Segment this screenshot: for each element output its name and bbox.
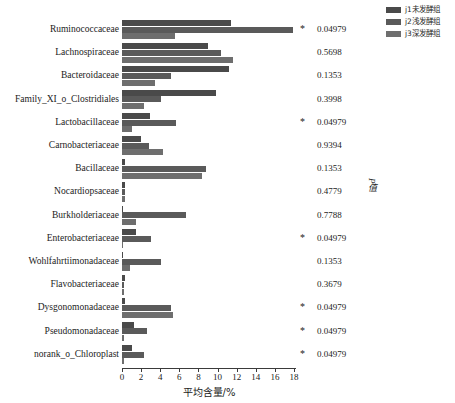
category-label-wrap: Wohlfahrtiimonadaceae <box>0 256 119 266</box>
category-label-wrap: norank_o_Chloroplast <box>0 349 119 359</box>
x-tick-label: 12 <box>232 372 241 382</box>
x-tick-label: 16 <box>270 372 279 382</box>
category-label-wrap: Lactobacillaceae <box>0 117 119 127</box>
pvalue-text: 0.1353 <box>317 256 342 266</box>
category-label: Lactobacillaceae <box>0 117 119 127</box>
category-label: Dysgonomonadaceae <box>0 302 119 312</box>
category-label-wrap: Bacillaceae <box>0 163 119 173</box>
bar <box>122 322 134 328</box>
pvalue-text: 0.04979 <box>317 117 346 127</box>
pvalue-text: 0.4779 <box>317 186 342 196</box>
category-label: Pseudomonadaceae <box>0 326 119 336</box>
x-axis-line <box>122 368 296 369</box>
pvalue-text: 0.04979 <box>317 326 346 336</box>
bar <box>122 182 125 188</box>
x-tick-label: 18 <box>290 372 299 382</box>
bar <box>122 120 176 126</box>
bar <box>122 259 161 265</box>
legend-item[interactable]: j3深发酵组 <box>386 29 440 38</box>
category-label-wrap: Enterobacteriaceae <box>0 233 119 243</box>
category-label: Lachnospiraceae <box>0 47 119 57</box>
category-label-wrap: Pseudomonadaceae <box>0 326 119 336</box>
pvalue-text: 0.04979 <box>317 233 346 243</box>
bar <box>122 328 147 334</box>
x-tick-label: 2 <box>139 372 144 382</box>
pvalue-text: 0.3679 <box>317 279 342 289</box>
legend-item-label: j2浅发酵组 <box>405 18 440 26</box>
x-axis-title: 平均含量/% <box>122 384 296 399</box>
bar <box>122 27 293 33</box>
pvalue-axis-title: P值 <box>366 178 379 193</box>
bar <box>122 173 202 179</box>
legend-item[interactable]: j2浅发酵组 <box>386 17 440 26</box>
bar <box>122 289 124 295</box>
category-label-wrap: Nocardiopsaceae <box>0 186 119 196</box>
category-label-wrap: Family_XI_o_Clostridiales <box>0 94 119 104</box>
legend: j1未发酵组j2浅发酵组j3深发酵组 <box>386 5 440 38</box>
legend-swatch-icon <box>386 19 401 25</box>
pvalue-text: 0.04979 <box>317 24 346 34</box>
pvalue-text: 0.3998 <box>317 94 342 104</box>
pvalue-text: 0.5698 <box>317 47 342 57</box>
category-label: Bacillaceae <box>0 163 119 173</box>
bar <box>122 126 132 132</box>
x-tick-label: 14 <box>251 372 260 382</box>
category-label: Flavobacteriaceae <box>0 279 119 289</box>
bar <box>122 206 123 212</box>
category-label: Bacteroidaceae <box>0 70 119 80</box>
bar <box>122 113 150 119</box>
bar <box>122 149 163 155</box>
bar <box>122 229 136 235</box>
significance-star: * <box>300 325 305 336</box>
bar <box>122 90 216 96</box>
category-label: Burkholderiaceae <box>0 210 119 220</box>
pvalue-text: 0.1353 <box>317 70 342 80</box>
legend-swatch-icon <box>386 7 401 13</box>
category-label-wrap: Carnobacteriaceae <box>0 140 119 150</box>
category-label: Carnobacteriaceae <box>0 140 119 150</box>
x-tick-label: 0 <box>120 372 125 382</box>
category-label-wrap: Bacteroidaceae <box>0 70 119 80</box>
bar <box>122 305 171 311</box>
significance-star: * <box>300 116 305 127</box>
bar <box>122 212 186 218</box>
bar <box>122 50 221 56</box>
category-label-wrap: Lachnospiraceae <box>0 47 119 57</box>
bar <box>122 236 151 242</box>
legend-item[interactable]: j1未发酵组 <box>386 5 440 14</box>
pvalue-text: 0.04979 <box>317 302 346 312</box>
bar <box>122 96 161 102</box>
x-tick-label: 8 <box>196 372 201 382</box>
x-tick-label: 10 <box>213 372 222 382</box>
x-tick-label: 6 <box>177 372 182 382</box>
category-label: Nocardiopsaceae <box>0 186 119 196</box>
bar <box>122 275 125 281</box>
bar <box>122 57 233 63</box>
pvalue-text: 0.9394 <box>317 140 342 150</box>
bar <box>122 335 124 341</box>
bar <box>122 136 141 142</box>
bar <box>122 66 229 72</box>
significance-star: * <box>300 348 305 359</box>
pvalue-text: 0.7788 <box>317 210 342 220</box>
bar <box>122 282 124 288</box>
pvalue-text: 0.1353 <box>317 163 342 173</box>
bar <box>122 352 144 358</box>
category-label: Wohlfahrtiimonadaceae <box>0 256 119 266</box>
bar <box>122 312 173 318</box>
bar <box>122 33 175 39</box>
bar <box>122 265 130 271</box>
bar <box>122 20 231 26</box>
bar <box>122 73 171 79</box>
bar <box>122 345 132 351</box>
pvalue-text: 0.04979 <box>317 349 346 359</box>
category-label-wrap: Flavobacteriaceae <box>0 279 119 289</box>
x-tick-label: 4 <box>158 372 163 382</box>
significance-star: * <box>300 301 305 312</box>
significance-star: * <box>300 23 305 34</box>
bar <box>122 242 123 248</box>
bar <box>122 189 125 195</box>
bar <box>122 298 125 304</box>
bar <box>122 196 125 202</box>
category-label: Ruminococcaceae <box>0 24 119 34</box>
